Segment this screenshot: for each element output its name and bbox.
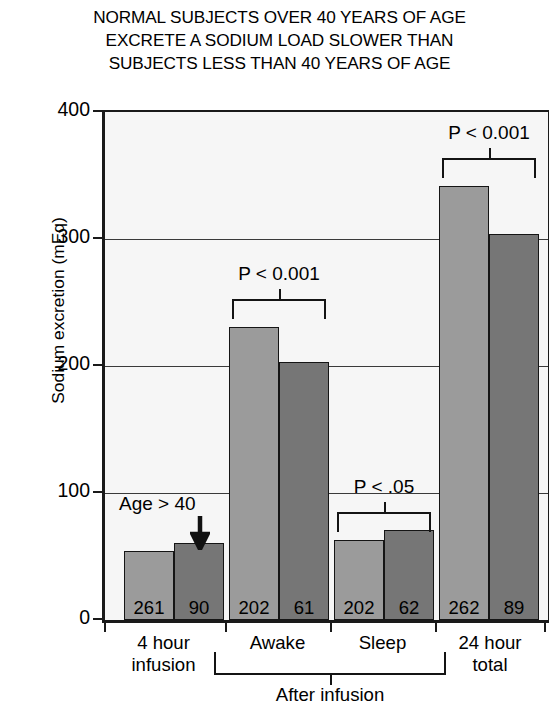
bar-24hour-under40: 262 (439, 186, 489, 620)
sig-bracket-sleep (337, 512, 431, 532)
bar-value-awake-over40: 61 (280, 598, 328, 617)
x-category-4-hour-infusion-line-1: 4 hour (102, 632, 225, 654)
after-infusion-bracket (214, 652, 446, 675)
y-tick-label-300: 300 (14, 227, 90, 247)
x-category-awake-line-1: Awake (225, 632, 330, 654)
bar-value-sleep-over40: 62 (385, 598, 433, 617)
x-category-4-hour-infusion-line-2: infusion (102, 654, 225, 676)
x-tick-mark-3 (435, 621, 437, 632)
x-tick-mark-2 (330, 621, 332, 632)
age-over-40-annotation: Age > 40 (119, 494, 196, 514)
x-category-sleep-line-1: Sleep (330, 632, 435, 654)
bar-value-awake-under40: 202 (230, 598, 278, 617)
plot-area: 261 90 Age > 40 202 61 P < 0.001 202 62 … (102, 110, 549, 623)
chart-title-line-2: EXCRETE A SODIUM LOAD SLOWER THAN (0, 29, 559, 52)
sig-label-24hour: P < 0.001 (419, 123, 559, 143)
x-category-24-hour-total-line-1: 24 hour (435, 632, 545, 654)
bar-awake-under40: 202 (229, 327, 279, 620)
x-category-4-hour-infusion: 4 hour infusion (102, 632, 225, 676)
x-category-24-hour-total: 24 hour total (435, 632, 545, 676)
y-tick-label-400: 400 (14, 100, 90, 120)
chart-title: NORMAL SUBJECTS OVER 40 YEARS OF AGE EXC… (0, 6, 559, 75)
bar-value-24hour-under40: 262 (440, 598, 488, 617)
x-tick-mark-4 (544, 621, 546, 632)
sig-label-sleep: P < .05 (319, 477, 449, 497)
x-category-awake: Awake (225, 632, 330, 654)
y-axis-title: Sodium excretion (mEq) (48, 161, 69, 461)
x-category-sleep: Sleep (330, 632, 435, 654)
bar-sleep-under40: 202 (334, 540, 384, 620)
sig-tick-sleep (384, 502, 386, 512)
sig-tick-awake (279, 289, 281, 299)
down-arrow-icon (190, 516, 210, 550)
after-infusion-label: After infusion (180, 685, 480, 705)
bar-value-sleep-under40: 202 (335, 598, 383, 617)
x-tick-mark-1 (225, 621, 227, 632)
sig-bracket-awake (232, 299, 326, 319)
y-tick-label-200: 200 (14, 354, 90, 374)
x-tick-mark-0 (104, 621, 106, 632)
sig-label-awake: P < 0.001 (209, 264, 349, 284)
bar-sleep-over40: 62 (384, 530, 434, 620)
bar-4hour-under40: 261 (124, 551, 174, 620)
y-tick-label-0: 0 (14, 608, 90, 628)
sig-tick-24hour (489, 148, 491, 158)
bar-value-4hour-over40: 90 (175, 598, 223, 617)
bar-value-4hour-under40: 261 (125, 598, 173, 617)
y-tick-label-100: 100 (14, 481, 90, 501)
chart-title-line-3: SUBJECTS LESS THAN 40 YEARS OF AGE (0, 52, 559, 75)
bar-24hour-over40: 89 (489, 234, 539, 620)
sig-bracket-24hour (442, 158, 536, 178)
chart-title-line-1: NORMAL SUBJECTS OVER 40 YEARS OF AGE (0, 6, 559, 29)
x-category-24-hour-total-line-2: total (435, 654, 545, 676)
bar-value-24hour-over40: 89 (490, 598, 538, 617)
chart-figure: NORMAL SUBJECTS OVER 40 YEARS OF AGE EXC… (0, 0, 559, 714)
bar-4hour-over40: 90 (174, 543, 224, 620)
